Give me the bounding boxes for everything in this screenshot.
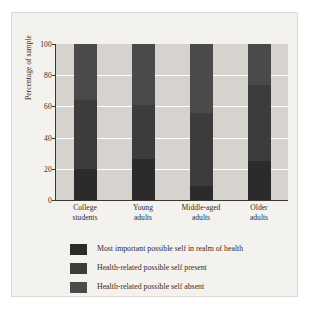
- x-tick-label-1: Collegestudents: [54, 203, 116, 223]
- y-tick-mark-0: [52, 200, 56, 201]
- bar-2-segment-2: [132, 105, 155, 160]
- y-tick-20: 20: [44, 164, 52, 173]
- chart-figure: Percentage of sample 100 80 60 40 20 0: [0, 0, 309, 309]
- x-tick-label-4: Olderadults: [228, 203, 290, 223]
- legend-item-1[interactable]: Most important possible self in realm of…: [70, 242, 300, 261]
- bar-1-segment-3: [74, 44, 97, 100]
- y-tick-mark-80: [52, 75, 56, 76]
- legend-swatch-3: [70, 282, 87, 293]
- y-tick-40: 40: [44, 133, 52, 142]
- y-tick-80: 80: [44, 71, 52, 80]
- bar-3-segment-2: [190, 113, 213, 186]
- bar-2-segment-3: [132, 44, 155, 105]
- bar-2-segment-1: [132, 159, 155, 200]
- y-tick-mark-20: [52, 169, 56, 170]
- x-tick-label-line: adults: [170, 213, 232, 223]
- legend-label-2: Health-related possible self present: [97, 262, 207, 274]
- plot-area: [56, 44, 288, 200]
- x-axis-tick-labels: CollegestudentsYoungadultsMiddle-agedadu…: [56, 203, 288, 231]
- bar-3-segment-3: [190, 44, 213, 113]
- bar-4-segment-3: [248, 44, 271, 85]
- legend-item-3[interactable]: Health-related possible self absent: [70, 280, 300, 299]
- x-tick-label-line: adults: [228, 213, 290, 223]
- y-tick-mark-100: [52, 44, 56, 45]
- bar-4-segment-2: [248, 85, 271, 161]
- y-tick-60: 60: [44, 102, 52, 111]
- legend-swatch-2: [70, 263, 87, 274]
- x-tick-label-2: Youngadults: [112, 203, 174, 223]
- bar-1-segment-2: [74, 100, 97, 169]
- legend-item-2[interactable]: Health-related possible self present: [70, 261, 300, 280]
- y-axis-line: [55, 44, 56, 200]
- bar-4: [248, 44, 271, 200]
- legend-label-3: Health-related possible self absent: [97, 281, 204, 293]
- legend-swatch-1: [70, 244, 87, 255]
- x-tick-label-line: Young: [112, 203, 174, 213]
- bar-4-segment-1: [248, 161, 271, 200]
- bar-3-segment-1: [190, 186, 213, 200]
- x-tick-label-line: Older: [228, 203, 290, 213]
- x-tick-label-line: Middle-aged: [170, 203, 232, 213]
- x-tick-label-line: adults: [112, 213, 174, 223]
- y-tick-mark-40: [52, 138, 56, 139]
- x-tick-label-line: students: [54, 213, 116, 223]
- bar-1-segment-1: [74, 169, 97, 200]
- x-tick-label-line: College: [54, 203, 116, 213]
- x-axis-line: [55, 200, 288, 201]
- y-tick-100: 100: [40, 40, 52, 49]
- figure-card: Percentage of sample 100 80 60 40 20 0: [11, 12, 298, 297]
- y-tick-mark-60: [52, 106, 56, 107]
- bar-2: [132, 44, 155, 200]
- chart-legend: Most important possible self in realm of…: [70, 242, 300, 299]
- x-tick-label-3: Middle-agedadults: [170, 203, 232, 223]
- bar-1: [74, 44, 97, 200]
- legend-label-1: Most important possible self in realm of…: [97, 243, 243, 255]
- bar-3: [190, 44, 213, 200]
- y-axis-tick-labels: 100 80 60 40 20 0: [30, 44, 52, 200]
